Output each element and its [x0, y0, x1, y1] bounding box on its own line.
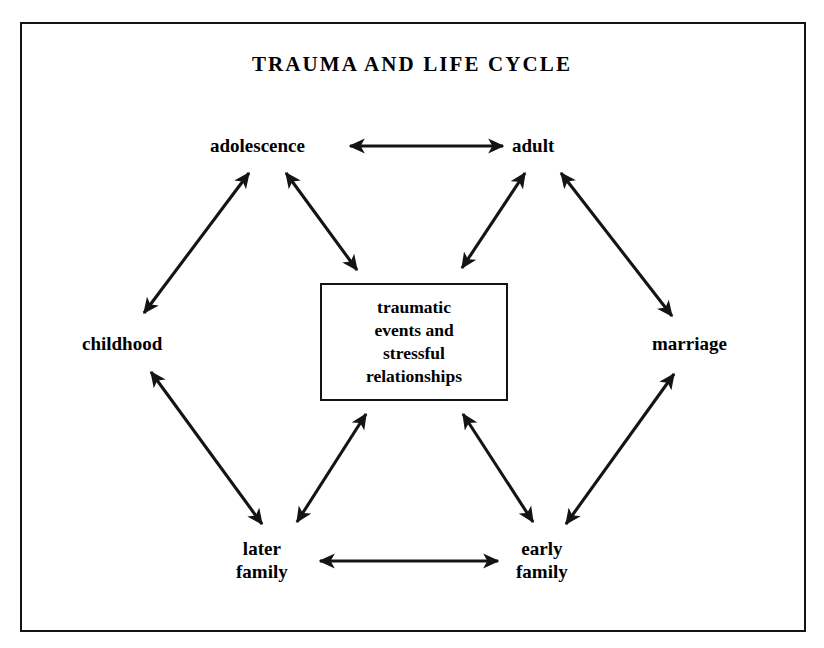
- arrow-early-family-center: [463, 414, 533, 522]
- node-marriage: marriage: [648, 331, 731, 356]
- center-box-line-1: traumatic: [377, 296, 451, 319]
- node-early-family: early family: [512, 536, 572, 584]
- center-box-line-4: relationships: [366, 365, 462, 388]
- center-box-line-2: events and: [374, 319, 453, 342]
- center-box: traumatic events and stressful relations…: [320, 283, 508, 401]
- node-childhood-label: childhood: [82, 333, 162, 354]
- center-box-line-3: stressful: [383, 342, 445, 365]
- node-childhood: childhood: [78, 331, 166, 356]
- node-early-family-label-line2: family: [516, 560, 568, 583]
- arrow-later-family-center: [297, 414, 366, 522]
- arrow-adult-center: [462, 173, 525, 268]
- node-adult-label: adult: [512, 135, 554, 156]
- arrow-adolescence-childhood: [144, 173, 249, 313]
- node-later-family: later family: [232, 536, 292, 584]
- page-title: TRAUMA AND LIFE CYCLE: [0, 52, 824, 77]
- node-adolescence-label: adolescence: [210, 135, 305, 156]
- node-early-family-label-line1: early: [516, 537, 568, 560]
- arrow-adult-marriage: [561, 173, 672, 316]
- node-later-family-label-line1: later: [236, 537, 288, 560]
- node-marriage-label: marriage: [652, 333, 727, 354]
- arrow-childhood-later-family: [151, 372, 262, 524]
- node-adult: adult: [508, 133, 558, 158]
- diagram-canvas: TRAUMA AND LIFE CYCLE adolescence adult …: [0, 0, 824, 648]
- arrow-adolescence-center: [286, 173, 357, 270]
- node-adolescence: adolescence: [206, 133, 309, 158]
- node-later-family-label-line2: family: [236, 560, 288, 583]
- arrow-marriage-early-family: [566, 374, 674, 524]
